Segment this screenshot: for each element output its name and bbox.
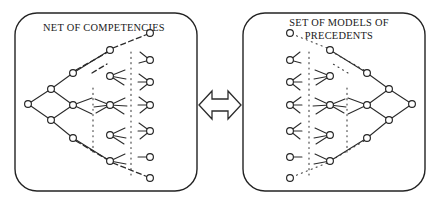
graph-node [25,101,32,108]
right-core-edges [330,50,412,161]
graph-node [386,86,393,93]
right-panel-title-line2: PRECEDENTS [305,30,373,41]
graph-node [107,73,114,80]
right-panel-group[interactable]: SET OF MODELS OF PRECEDENTS [243,13,425,191]
graph-node [287,57,294,64]
graph-node [147,79,154,86]
diagram-canvas: NET OF COMPETENCIES [0,0,437,208]
graph-node [364,102,371,109]
graph-node [107,102,114,109]
right-panel-nodes [287,30,416,182]
graph-node [327,47,334,54]
graph-node [147,57,154,64]
graph-node [364,70,371,77]
graph-node [287,128,294,135]
graph-node [147,102,154,109]
graph-node [107,132,114,139]
graph-node [287,102,294,109]
graph-node [147,30,154,37]
graph-node [70,102,77,109]
graph-node [287,175,294,182]
graph-node [364,135,371,142]
graph-node [107,47,114,54]
graph-node [147,175,154,182]
right-panel-title-line1: SET OF MODELS OF [289,17,388,28]
graph-node [48,117,55,124]
graph-node [107,158,114,165]
graph-node [48,86,55,93]
left-panel-frame [15,13,197,191]
graph-node [409,101,416,108]
graph-node [386,117,393,124]
right-dotted-separators [309,52,347,176]
graph-node [327,132,334,139]
left-dotted-separators [93,52,131,176]
right-leaf-fans [290,52,346,164]
graph-node [70,135,77,142]
graph-node [287,30,294,37]
left-panel-nodes [25,30,154,182]
graph-node [327,102,334,109]
bidirectional-arrow-shape [199,91,241,119]
graph-node [287,154,294,161]
graph-node [327,158,334,165]
left-leaf-fans [94,52,150,164]
graph-node [147,154,154,161]
diagram-svg: NET OF COMPETENCIES [0,0,437,208]
left-core-edges [28,50,110,161]
graph-node [147,128,154,135]
graph-node [287,79,294,86]
bidirectional-arrow[interactable] [199,91,241,119]
graph-node [70,70,77,77]
graph-node [327,73,334,80]
left-panel-group[interactable]: NET OF COMPETENCIES [15,13,197,191]
